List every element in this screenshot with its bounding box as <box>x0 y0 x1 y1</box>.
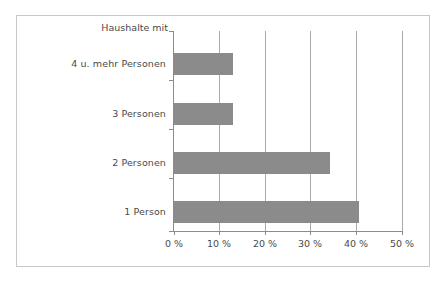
x-tick-label-50: 50 % <box>382 238 422 249</box>
x-tick-label-0: 0 % <box>154 238 194 249</box>
x-tick-label-40: 40 % <box>336 238 376 249</box>
x-tick-mark <box>356 231 357 235</box>
x-tick-mark <box>219 231 220 235</box>
x-tick-label-10: 10 % <box>199 238 239 249</box>
category-label-1-person: 1 Person <box>0 206 166 217</box>
y-tick-mark <box>169 178 174 179</box>
x-tick-mark <box>174 231 175 235</box>
y-tick-mark <box>169 31 174 32</box>
x-tick-mark <box>310 231 311 235</box>
plot-area <box>174 31 402 231</box>
axis-title: Haushalte mit <box>101 22 168 33</box>
bar-2-personen <box>174 152 330 174</box>
chart-figure: Haushalte mit 4 u. mehr Personen 3 Perso… <box>0 0 446 282</box>
y-tick-mark <box>169 129 174 130</box>
y-tick-mark <box>169 80 174 81</box>
bar-4-u-mehr-personen <box>174 53 233 75</box>
x-tick-label-20: 20 % <box>245 238 285 249</box>
bar-1-person <box>174 201 359 223</box>
x-tick-mark <box>402 231 403 235</box>
x-tick-mark <box>265 231 266 235</box>
category-label-3-personen: 3 Personen <box>0 108 166 119</box>
gridline-50 <box>402 31 403 231</box>
x-tick-label-30: 30 % <box>290 238 330 249</box>
bar-3-personen <box>174 103 233 125</box>
category-label-4-u-mehr-personen: 4 u. mehr Personen <box>0 58 166 69</box>
x-axis-line <box>173 231 403 232</box>
category-label-2-personen: 2 Personen <box>0 157 166 168</box>
